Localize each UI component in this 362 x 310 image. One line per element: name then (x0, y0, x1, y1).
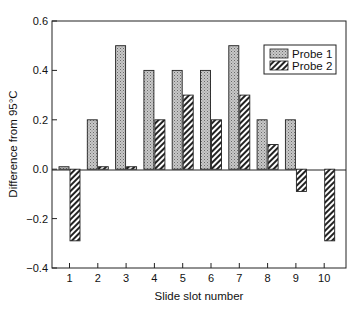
bar-probe-1-slot-8 (257, 120, 267, 169)
x-tick-label: 8 (265, 272, 271, 284)
x-tick-label: 5 (180, 272, 186, 284)
legend-swatch-probe-2 (270, 61, 288, 70)
x-axis-label: Slide slot number (155, 290, 244, 302)
bar-probe-1-slot-5 (172, 70, 182, 169)
x-tick-label: 3 (123, 272, 129, 284)
x-tick-label: 9 (293, 272, 299, 284)
bar-probe-1-slot-2 (87, 120, 97, 169)
legend-label-probe-2: Probe 2 (292, 60, 332, 72)
bar-probe-2-slot-7 (240, 95, 250, 169)
bars (59, 46, 335, 241)
bar-probe-1-slot-9 (285, 120, 295, 169)
y-tick-label: −0.4 (26, 262, 48, 274)
x-tick-label: 7 (236, 272, 242, 284)
y-tick-label: 0.4 (33, 64, 48, 76)
bar-probe-2-slot-9 (296, 169, 306, 191)
bar-probe-2-slot-1 (70, 169, 80, 241)
x-tick-label: 1 (66, 272, 72, 284)
y-axis-label: Difference from 95°C (7, 90, 19, 197)
y-tick-label: 0.0 (33, 163, 48, 175)
bar-probe-1-slot-6 (201, 70, 211, 169)
bar-probe-1-slot-4 (144, 70, 154, 169)
bar-probe-2-slot-4 (155, 120, 165, 169)
x-axis-ticks: 12345678910 (66, 263, 330, 284)
bar-probe-1-slot-7 (229, 46, 239, 170)
y-tick-label: 0.6 (33, 15, 48, 27)
bar-probe-2-slot-10 (325, 169, 335, 241)
bar-probe-2-slot-5 (183, 95, 193, 169)
bar-probe-2-slot-3 (127, 167, 137, 169)
y-tick-label: 0.2 (33, 114, 48, 126)
x-tick-label: 4 (151, 272, 157, 284)
x-tick-label: 10 (318, 272, 330, 284)
legend-swatch-probe-1 (270, 49, 288, 58)
bar-probe-2-slot-6 (212, 120, 222, 169)
y-tick-label: −0.2 (26, 213, 48, 225)
bar-probe-2-slot-8 (268, 145, 278, 170)
bar-chart: −0.4−0.20.00.20.40.6 12345678910 Slide s… (0, 0, 362, 310)
bar-probe-2-slot-2 (98, 167, 108, 169)
legend: Probe 1 Probe 2 (264, 45, 336, 74)
legend-label-probe-1: Probe 1 (292, 48, 332, 60)
x-tick-label: 2 (95, 272, 101, 284)
x-tick-label: 6 (208, 272, 214, 284)
bar-probe-1-slot-1 (59, 167, 69, 169)
bar-probe-1-slot-3 (116, 46, 126, 170)
